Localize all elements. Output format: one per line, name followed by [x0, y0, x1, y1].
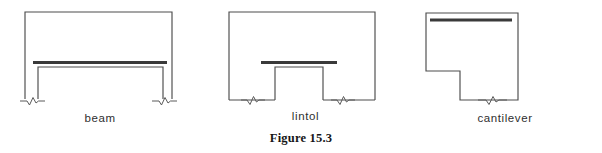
- beam-opening-outline: [38, 67, 163, 99]
- diagram-beam: [0, 0, 200, 130]
- beam-wall-outline: [25, 12, 172, 99]
- figure-15-3: beam lintol cantilever Figure 15.3: [0, 0, 602, 153]
- beam-support-left: [20, 98, 45, 106]
- beam-drawing: [0, 0, 200, 130]
- diagram-label-beam: beam: [0, 112, 200, 124]
- diagram-label-lintol: lintol: [213, 110, 398, 122]
- lintol-opening-outline: [275, 67, 323, 100]
- lintol-wall-outline: [229, 12, 375, 100]
- beam-support-right: [152, 98, 177, 106]
- cantilever-outline: [426, 13, 518, 100]
- diagram-label-cantilever: cantilever: [408, 112, 602, 124]
- diagram-cantilever: [408, 0, 602, 130]
- cantilever-drawing: [408, 0, 602, 130]
- figure-caption: Figure 15.3: [0, 131, 602, 146]
